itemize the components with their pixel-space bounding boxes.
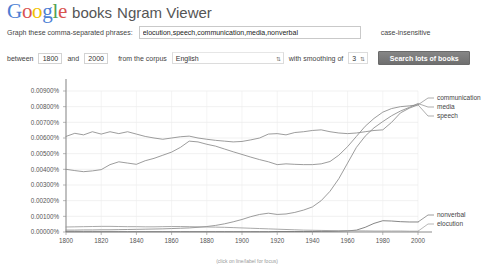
axis-lines bbox=[66, 79, 432, 232]
x-tick-label: 1820 bbox=[94, 237, 109, 244]
y-tick-label: 0.00300% bbox=[31, 181, 60, 188]
y-tick-label: 0.00200% bbox=[31, 197, 60, 204]
year-end-input[interactable] bbox=[84, 53, 108, 64]
y-axis-tick-labels: 0.00000%0.00100%0.00200%0.00300%0.00400%… bbox=[31, 87, 60, 235]
page-title: Ngram Viewer bbox=[117, 4, 212, 21]
corpus-select[interactable]: English ⇅ bbox=[172, 52, 284, 64]
chevron-updown-icon: ⇅ bbox=[360, 54, 365, 64]
legend-leader-nonverbal bbox=[418, 215, 434, 222]
x-tick-label: 1900 bbox=[235, 237, 250, 244]
chevron-updown-icon: ⇅ bbox=[276, 54, 281, 64]
between-label: between bbox=[7, 55, 33, 62]
legend-label-nonverbal[interactable]: nonverbal bbox=[437, 211, 466, 218]
legend-label-elocution[interactable]: elocution bbox=[437, 220, 463, 227]
y-tick-label: 0.00500% bbox=[31, 150, 60, 157]
legend-label-media[interactable]: media bbox=[437, 103, 455, 110]
smoothing-select-value: 3 bbox=[352, 55, 356, 62]
books-label[interactable]: books bbox=[72, 4, 112, 21]
corpus-label: from the corpus bbox=[118, 55, 167, 62]
query-row: Graph these comma-separated phrases: cas… bbox=[7, 26, 431, 39]
y-tick-label: 0.00900% bbox=[31, 87, 60, 94]
and-label: and bbox=[67, 55, 79, 62]
phrases-label: Graph these comma-separated phrases: bbox=[7, 29, 133, 36]
phrases-input[interactable] bbox=[139, 26, 361, 39]
x-tick-label: 1960 bbox=[341, 237, 356, 244]
x-tick-label: 1840 bbox=[129, 237, 144, 244]
smoothing-label: with smoothing of bbox=[289, 55, 343, 62]
legend-label-speech[interactable]: speech bbox=[437, 112, 458, 120]
x-tick-label: 2000 bbox=[411, 237, 426, 244]
corpus-select-value: English bbox=[176, 55, 199, 62]
x-tick-label: 1800 bbox=[59, 237, 74, 244]
x-tick-label: 1880 bbox=[200, 237, 215, 244]
x-tick-label: 1860 bbox=[165, 237, 180, 244]
y-tick-label: 0.00000% bbox=[31, 228, 60, 235]
y-tick-label: 0.00600% bbox=[31, 134, 60, 141]
google-logo[interactable]: Google bbox=[7, 1, 67, 22]
ngram-chart[interactable]: 0.00000%0.00100%0.00200%0.00300%0.00400%… bbox=[0, 74, 495, 267]
search-button[interactable]: Search lots of books bbox=[378, 51, 470, 65]
x-tick-label: 1920 bbox=[270, 237, 285, 244]
legend-leader-elocution bbox=[418, 224, 434, 231]
chart-legend[interactable]: communicationmediaspeechnonverbalelocuti… bbox=[418, 94, 481, 231]
legend-leader-media bbox=[418, 104, 434, 108]
y-tick-label: 0.00800% bbox=[31, 103, 60, 110]
options-row: between and from the corpus English ⇅ wi… bbox=[7, 51, 470, 65]
y-tick-label: 0.00100% bbox=[31, 213, 60, 220]
y-tick-label: 0.00400% bbox=[31, 166, 60, 173]
year-start-input[interactable] bbox=[38, 53, 62, 64]
legend-leader-communication bbox=[418, 98, 434, 105]
x-axis-tick-labels: 1800182018401860188019001920194019601980… bbox=[59, 237, 426, 244]
case-insensitive-label[interactable]: case-insensitive bbox=[381, 29, 431, 36]
legend-label-communication[interactable]: communication bbox=[437, 94, 481, 101]
x-tick-label: 1980 bbox=[376, 237, 391, 244]
chart-svg[interactable]: 0.00000%0.00100%0.00200%0.00300%0.00400%… bbox=[0, 74, 495, 267]
focus-hint: (click on line/label for focus) bbox=[216, 258, 278, 264]
x-tick-label: 1940 bbox=[305, 237, 320, 244]
smoothing-select[interactable]: 3 ⇅ bbox=[348, 52, 368, 64]
y-tick-label: 0.00700% bbox=[31, 119, 60, 126]
masthead: Google books Ngram Viewer bbox=[7, 1, 212, 22]
